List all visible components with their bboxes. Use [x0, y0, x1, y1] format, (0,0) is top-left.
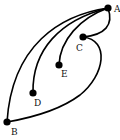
graph-diagram: ABCDE — [0, 0, 120, 140]
node-label-D: D — [34, 98, 41, 108]
node-label-A: A — [113, 4, 120, 14]
node-D — [29, 89, 36, 96]
node-label-E: E — [61, 69, 68, 79]
node-A — [104, 4, 111, 11]
node-B — [3, 118, 10, 125]
node-label-B: B — [11, 127, 18, 137]
edge-C-B — [7, 37, 101, 122]
node-E — [55, 61, 62, 68]
node-C — [79, 33, 86, 40]
graph-svg: ABCDE — [0, 0, 120, 140]
edge-A-D — [33, 8, 108, 93]
node-label-C: C — [76, 43, 83, 53]
